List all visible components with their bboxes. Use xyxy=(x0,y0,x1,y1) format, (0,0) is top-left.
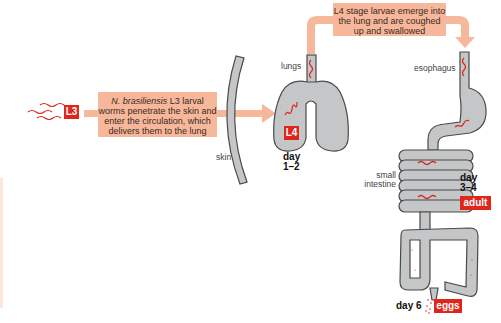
intestine-day-label: day 3–4 xyxy=(460,173,477,193)
skin-icon xyxy=(227,56,247,184)
small-intestine-line2: intestine xyxy=(364,180,396,189)
lung-day-line2: 1–2 xyxy=(283,162,300,172)
eggs-day-label: day 6 xyxy=(396,301,422,311)
lung-exit-note: L4 stage larvae emerge into the lung and… xyxy=(333,3,446,36)
esophagus-label: esophagus xyxy=(414,64,456,73)
intestine-day-line2: 3–4 xyxy=(460,183,477,193)
skin-entry-note: N. brasiliensis L3 larval worms penetrat… xyxy=(98,92,217,137)
small-intestine-label: small intestine xyxy=(364,171,396,189)
l3-stage-tag: L3 xyxy=(64,105,79,119)
skin-label: skin xyxy=(216,153,231,162)
lung-day-label: day 1–2 xyxy=(283,152,300,172)
l4-stage-tag: L4 xyxy=(284,126,299,140)
l3-worms-icon xyxy=(28,104,64,120)
lungs-label: lungs xyxy=(281,62,301,71)
species-name: N. brasiliensis xyxy=(111,96,167,106)
diagram-graphics xyxy=(0,0,501,323)
eggs-stage-tag: eggs xyxy=(434,299,462,313)
adult-stage-tag: adult xyxy=(460,196,491,210)
